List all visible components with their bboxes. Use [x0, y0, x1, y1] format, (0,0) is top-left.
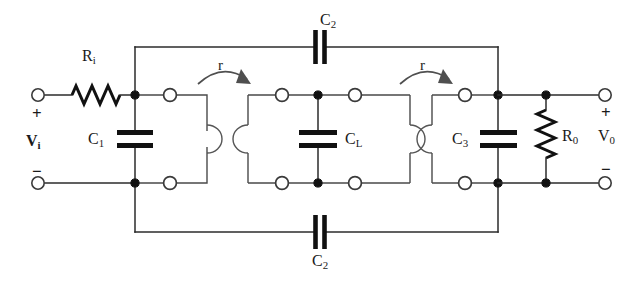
output-terminal-positive[interactable]: [599, 89, 611, 101]
coupling-loop-1-left: [207, 125, 222, 153]
resonator-1-port-bottom[interactable]: [164, 177, 177, 190]
load-resistor-symbol: [537, 110, 555, 158]
resonator-2: [233, 89, 425, 190]
resonator-3-port-top[interactable]: [459, 89, 472, 102]
coupling-arrow-2: [400, 69, 453, 84]
cap2-top-label: C2: [320, 12, 336, 30]
resonator-3-port-bottom[interactable]: [459, 177, 472, 190]
resonator-2-port-bottom-left[interactable]: [276, 177, 289, 190]
input-section: [32, 86, 135, 189]
resonator-2-box: [248, 95, 410, 183]
coupling-label-2: r: [420, 58, 425, 73]
node-load-bottom: [542, 179, 550, 187]
input-minus-sign: −: [32, 163, 42, 180]
node-input-top: [131, 91, 139, 99]
load-resistor-label: R0: [562, 128, 578, 146]
resonator-2-port-bottom-right[interactable]: [349, 177, 362, 190]
node-load-top: [542, 91, 550, 99]
input-source-label: Vi: [26, 133, 41, 151]
output-load-label: V0: [598, 128, 615, 146]
resonator-1: [117, 89, 222, 190]
source-resistor-symbol: [72, 86, 120, 104]
coupling-loop-1-right: [233, 125, 248, 153]
source-resistor-label: Ri: [82, 48, 96, 66]
resonator-1-port-top[interactable]: [164, 89, 177, 102]
output-section: [498, 89, 611, 189]
cap2-bottom-label: C2: [312, 253, 328, 271]
resonator-2-port-top-right[interactable]: [349, 89, 362, 102]
top-c2-branch: [135, 30, 498, 95]
bottom-c2-branch: [135, 183, 498, 249]
coupling-label-1: r: [218, 58, 223, 73]
capL-label: CL: [345, 131, 362, 149]
output-plus-sign: +: [601, 104, 611, 121]
input-terminal-positive[interactable]: [32, 89, 44, 101]
resonator-2-port-top-left[interactable]: [276, 89, 289, 102]
output-minus-sign: −: [601, 161, 611, 178]
coupling-arrow-1-head: [236, 69, 251, 84]
circuit-diagram-canvas: Ri + Vi − C1 CL C3 C2 C2 r r R0 V0 + −: [0, 0, 642, 287]
input-plus-sign: +: [32, 105, 42, 122]
node-mid-top: [314, 91, 322, 99]
node-mid-bottom: [314, 179, 322, 187]
coupling-arrow-2-head: [438, 69, 453, 84]
cap1-label: C1: [88, 131, 104, 149]
resonator-1-box: [135, 95, 207, 183]
cap3-label: C3: [452, 131, 468, 149]
node-input-bottom: [131, 179, 139, 187]
coupling-arrow-1: [198, 69, 251, 84]
